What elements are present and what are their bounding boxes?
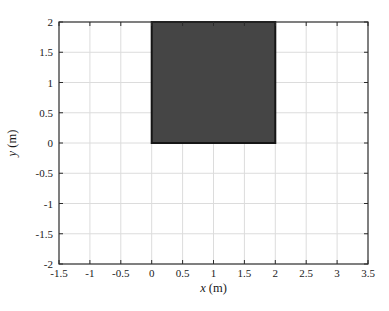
x-tick-label: 3 xyxy=(334,267,340,279)
y-tick-label: -0.5 xyxy=(36,167,54,179)
y-tick-label: 1.5 xyxy=(39,46,53,58)
x-tick-label: 2 xyxy=(273,267,279,279)
y-tick-label: -1.5 xyxy=(36,228,54,240)
y-tick-label: 1 xyxy=(48,77,54,89)
x-tick-label: 0 xyxy=(149,267,155,279)
y-tick-label: 2 xyxy=(48,16,54,28)
x-tick-label: 0.5 xyxy=(176,267,190,279)
y-tick-label: 0 xyxy=(48,137,54,149)
x-tick-label: -1 xyxy=(85,267,94,279)
y-axis-label: y (m) xyxy=(5,130,19,159)
y-tick-label: 0.5 xyxy=(39,107,53,119)
plot-svg: -1.5-1-0.500.511.522.533.5-2-1.5-1-0.500… xyxy=(0,0,389,311)
x-axis-label: x (m) xyxy=(199,281,227,295)
x-tick-label: 2.5 xyxy=(299,267,313,279)
x-tick-label: 1.5 xyxy=(238,267,252,279)
x-tick-label: 3.5 xyxy=(361,267,375,279)
shaded-square xyxy=(152,22,276,143)
x-tick-label: 1 xyxy=(211,267,217,279)
y-tick-label: -1 xyxy=(44,198,53,210)
x-tick-label: -0.5 xyxy=(112,267,130,279)
y-tick-label: -2 xyxy=(44,258,53,270)
figure: -1.5-1-0.500.511.522.533.5-2-1.5-1-0.500… xyxy=(0,0,389,311)
